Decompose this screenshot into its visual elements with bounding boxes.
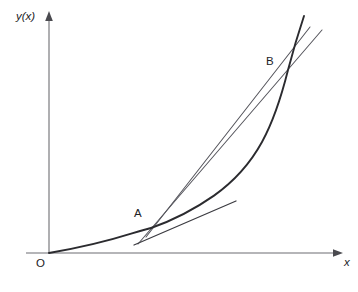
tangent-line-at-a (134, 201, 236, 245)
function-curve (49, 16, 304, 253)
tangent-line-group (134, 201, 236, 245)
point-b-label: B (266, 56, 274, 68)
curve-group (49, 16, 304, 253)
y-axis-label: y(x) (16, 11, 35, 23)
figure-canvas: y(x) x O A B (0, 0, 358, 292)
y-axis-arrowhead (45, 11, 53, 21)
diagram-svg (0, 0, 358, 292)
origin-label: O (36, 258, 45, 270)
point-a-label: A (134, 208, 142, 220)
secant-lines-group (138, 27, 322, 244)
axes-group (26, 11, 343, 257)
x-axis-arrowhead (333, 249, 343, 257)
x-axis-label: x (344, 257, 350, 269)
secant-line-ab (146, 27, 310, 237)
